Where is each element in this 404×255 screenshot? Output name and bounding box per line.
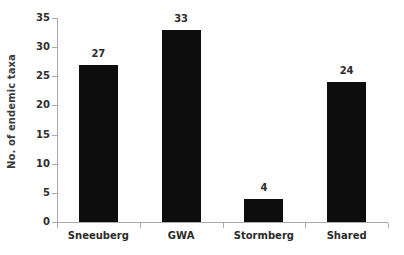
y-axis-tick-label: 10 (22, 159, 50, 169)
y-axis-title-label: No. of endemic taxa (6, 54, 17, 169)
bar-value-label: 27 (68, 49, 128, 59)
x-axis-tick-mark (388, 223, 389, 228)
bar-chart: No. of endemic taxa 05101520253035 27334… (0, 0, 404, 255)
y-axis-tick-label: 0 (22, 217, 50, 227)
y-axis-tick-label: 25 (22, 71, 50, 81)
x-axis-tick-mark (223, 223, 224, 228)
y-axis-tick-label: 15 (22, 130, 50, 140)
bar-value-label: 33 (151, 14, 211, 24)
plot-area (58, 10, 388, 222)
bar-value-label: 4 (234, 183, 294, 193)
y-axis-title: No. of endemic taxa (0, 0, 22, 222)
bar (79, 65, 118, 222)
x-axis-tick-mark (140, 223, 141, 228)
y-axis-tick-label: 35 (22, 13, 50, 23)
y-axis-tick-label: 5 (22, 188, 50, 198)
bar-value-label: 24 (317, 66, 377, 76)
bar (162, 30, 201, 222)
bar (327, 82, 366, 222)
y-axis-tick-label: 30 (22, 42, 50, 52)
bar (244, 199, 283, 222)
x-axis-category-label: Shared (297, 231, 397, 241)
y-axis-tick-label: 20 (22, 100, 50, 110)
x-axis-tick-mark (305, 223, 306, 228)
x-axis-tick-mark (57, 223, 58, 228)
